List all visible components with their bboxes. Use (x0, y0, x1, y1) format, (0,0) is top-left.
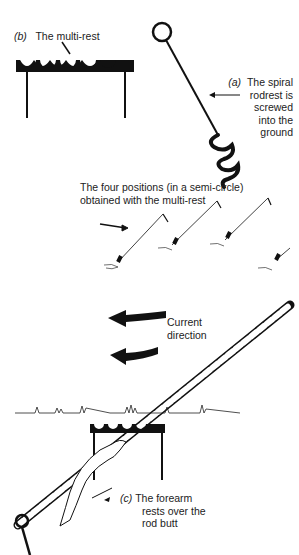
current-line: direction (167, 329, 207, 342)
multi-rest-drawing (16, 42, 134, 118)
panel-b-label: (b) The multi-rest (14, 30, 100, 43)
panel-a-line: ground (205, 126, 293, 139)
panel-c-line: The forearm (135, 492, 192, 504)
current-line: Current (167, 316, 207, 329)
four-positions-drawing (100, 198, 290, 270)
current-direction-label: Current direction (167, 316, 207, 341)
panel-c-label: (c) The forearm rests over the rod butt (120, 492, 206, 530)
caption-line: obtained with the multi-rest (80, 194, 243, 207)
panel-a-tag: (a) (228, 76, 241, 88)
panel-c-line: rests over the (120, 505, 206, 518)
panel-a-line: rodrest is (205, 89, 293, 102)
panel-a-label: (a) The spiral rodrest is screwed into t… (205, 76, 293, 139)
positions-caption: The four positions (in a semi-circle) ob… (80, 181, 243, 206)
panel-a-line: screwed (205, 101, 293, 114)
bank-grass (15, 405, 240, 413)
current-arrows (108, 310, 166, 365)
panel-b-tag: (b) (14, 30, 27, 42)
panel-a-line: into the (205, 114, 293, 127)
panel-c-tag: (c) (120, 492, 132, 504)
caption-line: The four positions (in a semi-circle) (80, 181, 243, 194)
panel-a-line: The spiral (247, 76, 293, 88)
panel-b-title: The multi-rest (35, 30, 99, 42)
panel-c-line: rod butt (120, 517, 206, 530)
